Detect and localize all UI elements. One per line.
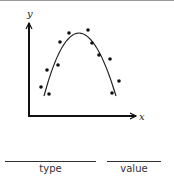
- x-axis-label: x: [139, 111, 145, 122]
- data-point: [86, 28, 90, 32]
- data-point: [90, 41, 94, 45]
- data-point: [39, 85, 43, 89]
- value-answer-line[interactable]: [107, 161, 161, 162]
- value-label: value: [107, 163, 161, 175]
- data-point: [108, 57, 112, 61]
- scatter-plot-diagram: y x: [0, 0, 174, 140]
- y-axis-label: y: [26, 8, 33, 19]
- data-point: [56, 63, 60, 67]
- data-points: [39, 28, 121, 96]
- data-point: [97, 53, 101, 57]
- type-answer-line[interactable]: [5, 161, 96, 162]
- data-point: [117, 79, 121, 83]
- type-label: type: [5, 163, 96, 175]
- data-point: [110, 91, 114, 95]
- data-point: [45, 68, 49, 72]
- data-point: [67, 31, 71, 35]
- data-point: [58, 40, 62, 44]
- data-point: [47, 92, 51, 96]
- fitted-parabola-curve: [44, 33, 116, 96]
